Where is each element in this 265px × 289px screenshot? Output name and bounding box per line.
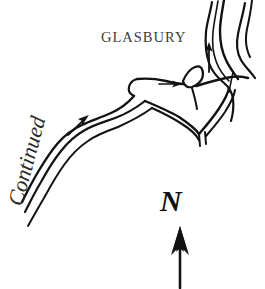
road-direction-arrow-southwest xyxy=(68,115,89,135)
road-southeast-branch xyxy=(145,88,235,146)
north-letter-label: N xyxy=(160,186,182,216)
north-arrow xyxy=(171,226,189,288)
road-west-approach xyxy=(129,79,184,96)
road-stub-south xyxy=(192,88,197,109)
place-label-glasbury: GLASBURY xyxy=(101,30,186,45)
sketch-map-figure: GLASBURY Continued N xyxy=(0,0,265,289)
